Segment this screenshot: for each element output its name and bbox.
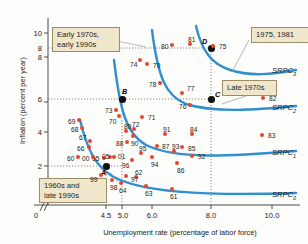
data-point-label-76: 76 — [179, 103, 186, 110]
data-point-label-00: 00 — [82, 155, 89, 162]
equilibrium-label-d: D — [202, 37, 207, 46]
data-point-label-89: 89 — [124, 123, 131, 130]
data-point-label-92: 92 — [198, 153, 205, 160]
data-point-label-88: 88 — [116, 140, 123, 147]
data-point-label-93: 93 — [172, 143, 179, 150]
data-point-label-99: 99 — [90, 176, 97, 183]
y-tick-label-8-guide: 8 — [28, 44, 42, 53]
y-tick-marks — [44, 33, 48, 166]
x-tick-label-10-0: 10.0 — [260, 211, 284, 220]
data-point-label-85: 85 — [188, 145, 195, 152]
data-point-label-66: 66 — [77, 145, 84, 152]
data-point-label-63: 63 — [145, 190, 152, 197]
equilibrium-dot-c — [208, 96, 215, 103]
srpc-3-name: SRPC — [272, 66, 293, 75]
x-tick-label-8-0: 8.0 — [199, 211, 223, 220]
callout-1975-1981: 1975, 1981 — [251, 27, 308, 43]
data-point-label-80: 80 — [161, 43, 168, 50]
x-tick-label-6-0: 6.0 — [140, 211, 164, 220]
data-point-label-60: 60 — [67, 155, 74, 162]
data-point-label-77: 77 — [187, 85, 194, 92]
data-point-label-83: 83 — [268, 132, 275, 139]
srpc-3-sub: 3 — [293, 71, 296, 77]
data-point-label-86: 86 — [177, 167, 184, 174]
equilibrium-label-b: B — [122, 87, 127, 96]
callout-early-1970s: Early 1970s, early 1990s — [52, 27, 120, 52]
srpc-1-label: SRPC1 — [272, 148, 296, 159]
data-point-label-72: 72 — [132, 121, 139, 128]
data-point-label-74: 74 — [130, 61, 137, 68]
data-point-label-90: 90 — [131, 140, 138, 147]
srpc-2-sub: 2 — [293, 108, 296, 114]
srpc-1-sub: 1 — [293, 153, 296, 159]
x-tick-label-5-0: 5.0 — [111, 211, 135, 220]
callout-late-1970s: Late 1970s — [222, 80, 277, 96]
equilibrium-label-c: C — [215, 90, 220, 99]
data-point-label-78: 78 — [149, 81, 156, 88]
data-point-label-97: 97 — [131, 176, 138, 183]
x-axis-title: Unemployment rate (percentage of labor f… — [60, 228, 300, 237]
data-point-label-64: 64 — [119, 187, 126, 194]
data-point-label-61: 61 — [170, 193, 177, 200]
x-tick-marks — [106, 205, 272, 209]
srpc-1-name: SRPC — [272, 148, 293, 157]
phillips-curve-figure: Inflation (percent per year) 10 8 8 6 4 … — [0, 0, 308, 244]
y-tick-label-6: 6 — [28, 95, 42, 104]
data-point-label-75: 75 — [219, 43, 226, 50]
data-point-label-82: 82 — [269, 95, 276, 102]
data-point-label-81: 81 — [188, 36, 195, 43]
data-point-label-67: 67 — [79, 134, 86, 141]
equilibrium-dot-b — [119, 96, 126, 103]
y-tick-label-2: 2 — [28, 162, 42, 171]
data-point-label-73: 73 — [105, 107, 112, 114]
data-point-label-91: 91 — [163, 126, 170, 133]
x-tick-label-0: 0 — [24, 211, 48, 220]
srpc-3-label: SRPC3 — [272, 66, 296, 77]
data-point-label-68: 68 — [71, 126, 78, 133]
data-point-label-71: 71 — [148, 114, 155, 121]
y-tick-label-10: 10 — [28, 29, 42, 38]
data-point-label-70: 70 — [109, 118, 116, 125]
y-tick-label-4: 4 — [28, 128, 42, 137]
srpc-2-label: SRPC2 — [272, 103, 296, 114]
srpc-2-name: SRPC — [272, 103, 293, 112]
data-point-label-96: 96 — [122, 162, 129, 169]
data-point-label-01: 01 — [118, 153, 125, 160]
data-point-label-84: 84 — [190, 126, 197, 133]
data-point-label-79: 79 — [153, 62, 160, 69]
srpc-0-name: SRPC — [272, 190, 293, 199]
data-point-label-95: 95 — [139, 145, 146, 152]
data-point-label-05: 05 — [102, 153, 109, 160]
data-point-label-94: 94 — [151, 161, 158, 168]
srpc-0-label: SRPC0 — [272, 190, 296, 201]
data-point-label-98: 98 — [110, 184, 117, 191]
srpc-0-sub: 0 — [293, 195, 296, 201]
data-point-label-87: 87 — [162, 143, 169, 150]
y-tick-label-8: 8 — [28, 53, 42, 62]
y-axis-title: Inflation (percent per year) — [18, 41, 27, 161]
data-point-label-69: 69 — [68, 118, 75, 125]
data-point-label-62: 62 — [135, 169, 142, 176]
